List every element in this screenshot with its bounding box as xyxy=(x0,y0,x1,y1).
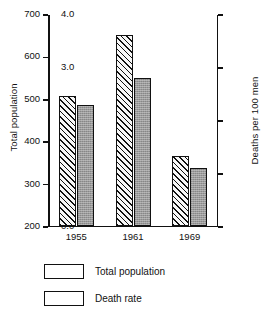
y-axis-left-tick xyxy=(43,141,48,143)
chart-legend: Total populationDeath rate xyxy=(44,261,165,315)
bar-1955-death-rate xyxy=(77,105,94,225)
bar-1969-total-population xyxy=(172,156,189,225)
y-axis-right-tick-label: 3.0 xyxy=(61,61,101,72)
bar-1969-death-rate xyxy=(190,168,207,226)
bar-1961-death-rate xyxy=(134,78,151,225)
y-axis-right-tick-label: 4.0 xyxy=(61,8,101,19)
plot-area: 700600500400300200 4.03.02.01.00.0 19551… xyxy=(48,15,218,227)
y-axis-left-tick-label: 400 xyxy=(0,135,40,146)
y-axis-right-tick xyxy=(218,173,223,175)
y-axis-left-title: Total population xyxy=(8,63,19,173)
x-axis-tick-label: 1955 xyxy=(51,231,101,242)
y-axis-right-title: Deaths per 100 men xyxy=(249,56,260,186)
bar-chart: Total population Deaths per 100 men 7006… xyxy=(0,0,263,315)
y-axis-left-tick xyxy=(43,99,48,101)
legend-item: Death rate xyxy=(44,288,165,308)
legend-label: Total population xyxy=(95,266,165,277)
y-axis-left-line xyxy=(48,15,50,227)
y-axis-left-tick-label: 200 xyxy=(0,220,40,231)
x-axis-tick-label: 1961 xyxy=(108,231,158,242)
y-axis-left-tick-label: 700 xyxy=(0,8,40,19)
y-axis-left-tick-label: 600 xyxy=(0,50,40,61)
legend-swatch-diagonal-hatch xyxy=(44,264,84,279)
legend-item: Total population xyxy=(44,261,165,281)
bar-1955-total-population xyxy=(59,96,76,225)
legend-swatch-gray-stipple xyxy=(44,291,84,306)
y-axis-left-tick-label: 500 xyxy=(0,93,40,104)
x-axis-tick-label: 1969 xyxy=(165,231,215,242)
y-axis-right-tick xyxy=(218,67,223,69)
bar-1961-total-population xyxy=(116,35,133,226)
legend-label: Death rate xyxy=(95,293,142,304)
y-axis-left-tick xyxy=(43,57,48,59)
y-axis-left-tick xyxy=(43,226,48,228)
y-axis-left-tick xyxy=(43,184,48,186)
y-axis-left-tick xyxy=(43,14,48,16)
y-axis-right-tick xyxy=(218,226,223,228)
y-axis-left-tick-label: 300 xyxy=(0,178,40,189)
y-axis-right-tick xyxy=(218,120,223,122)
y-axis-right-tick xyxy=(218,14,223,16)
